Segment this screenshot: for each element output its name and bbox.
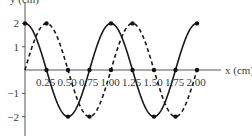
x-tick-label: 0.25 (36, 76, 56, 88)
y-tick-label: −2 (7, 111, 19, 123)
y-tick-label: −1 (7, 87, 19, 99)
y-tick-label: 1 (14, 41, 20, 53)
axis-point (130, 68, 134, 72)
wave-extremum-point (109, 21, 113, 25)
axis-point (195, 68, 199, 72)
axis-point (66, 68, 70, 72)
wave-extremum-point (87, 114, 91, 118)
wave-extremum-point (23, 21, 27, 25)
axis-point (44, 68, 48, 72)
x-tick-label: 1.00 (100, 76, 120, 88)
x-axis-label: x (cm) (225, 64, 252, 77)
x-tick-label: 0.75 (79, 76, 99, 88)
wave-extremum-point (173, 114, 177, 118)
axis-point (109, 68, 113, 72)
y-tick-label: 2 (14, 17, 20, 29)
axis-point (152, 68, 156, 72)
x-tick-label: 1.75 (165, 76, 185, 88)
wave-extremum-point (130, 21, 134, 25)
x-tick-label: 2.00 (186, 76, 206, 88)
x-tick-label: 1.50 (143, 76, 163, 88)
axis-point (173, 68, 177, 72)
wave-extremum-point (195, 21, 199, 25)
x-tick-label: 0.50 (57, 76, 77, 88)
wave-extremum-point (66, 114, 70, 118)
wave-extremum-point (152, 114, 156, 118)
wave-extremum-point (44, 21, 48, 25)
wave-chart: x (cm) y (cm) 0.250.500.751.001.251.501.… (0, 0, 252, 136)
axis-point (87, 68, 91, 72)
x-tick-label: 1.25 (122, 76, 142, 88)
